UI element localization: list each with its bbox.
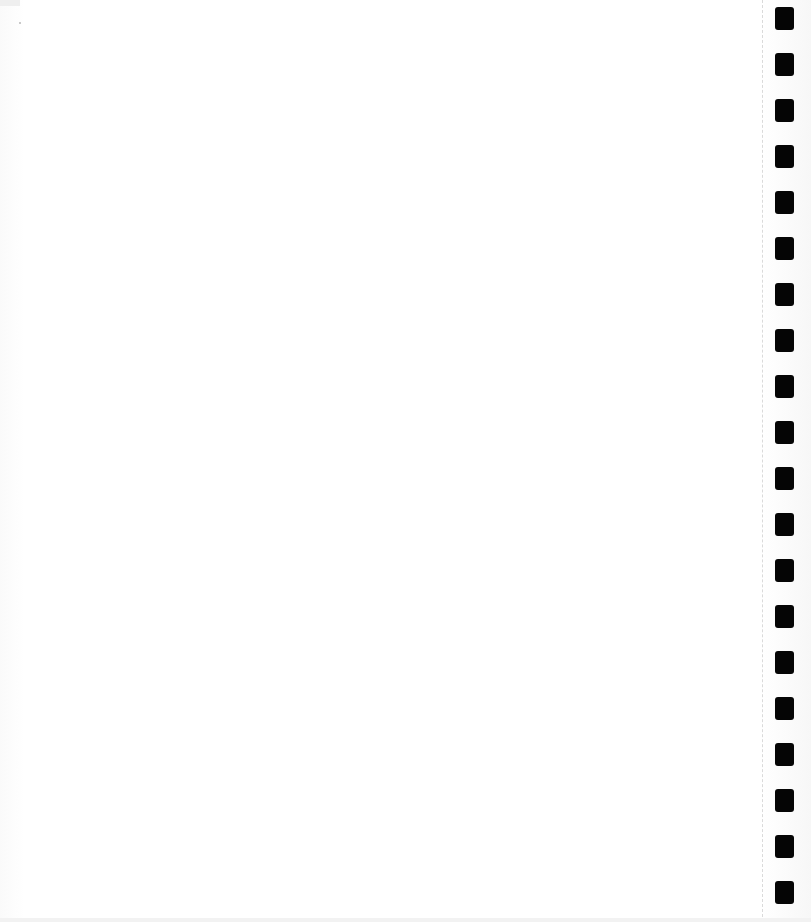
binding-square-icon <box>775 697 794 720</box>
binding-square-icon <box>775 835 794 858</box>
binding-square-icon <box>775 375 794 398</box>
binding-square-icon <box>775 237 794 260</box>
perforation-line <box>762 0 763 922</box>
binding-square-icon <box>775 53 794 76</box>
binding-square-icon <box>775 329 794 352</box>
scan-speck <box>19 22 21 24</box>
binding-square-icon <box>775 191 794 214</box>
binding-square-icon <box>775 467 794 490</box>
blank-page <box>0 0 811 922</box>
binding-square-icon <box>775 743 794 766</box>
binding-square-icon <box>775 881 794 904</box>
binding-square-icon <box>775 421 794 444</box>
corner-shadow <box>0 0 20 6</box>
binding-square-icon <box>775 283 794 306</box>
bottom-shadow <box>0 918 811 922</box>
binding-square-icon <box>775 513 794 536</box>
binding-square-icon <box>775 145 794 168</box>
binding-square-icon <box>775 7 794 30</box>
binding-square-icon <box>775 559 794 582</box>
binding-square-icon <box>775 651 794 674</box>
binding-square-icon <box>775 605 794 628</box>
binding-square-icon <box>775 99 794 122</box>
binding-square-icon <box>775 789 794 812</box>
